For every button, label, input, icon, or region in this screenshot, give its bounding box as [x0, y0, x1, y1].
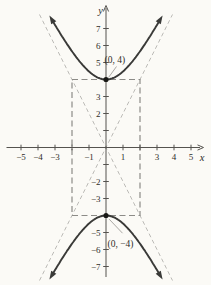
x-tick-label: −3 — [50, 152, 60, 162]
x-tick-label: 1 — [121, 152, 126, 162]
x-tick-label: 3 — [155, 152, 160, 162]
vertex-label-bottom: (0, −4) — [108, 239, 134, 250]
y-tick-label: −5 — [91, 228, 101, 238]
x-tick-label: 4 — [172, 152, 177, 162]
x-tick-label: 5 — [189, 152, 194, 162]
y-tick-label: 5 — [96, 58, 101, 68]
vertex-point-top — [103, 77, 108, 82]
y-tick-label: 6 — [96, 41, 101, 51]
x-tick-label: −5 — [16, 152, 26, 162]
y-axis-letter: y — [97, 5, 103, 16]
hyperbola-plot: xy−5−4−3−1134576532−2−3−5−6−7(0, 4)(0, −… — [0, 0, 211, 285]
vertex-label-top: (0, 4) — [105, 55, 126, 66]
x-axis-letter: x — [199, 152, 205, 163]
y-tick-label: −7 — [91, 262, 101, 272]
y-tick-label: 7 — [96, 24, 101, 34]
y-tick-label: 3 — [96, 92, 101, 102]
x-tick-label: −1 — [84, 152, 94, 162]
y-tick-label: −3 — [91, 194, 101, 204]
figure-page: xy−5−4−3−1134576532−2−3−5−6−7(0, 4)(0, −… — [0, 0, 211, 285]
y-tick-label: −6 — [91, 245, 101, 255]
y-tick-label: −2 — [91, 177, 101, 187]
vertex-point-bottom — [103, 213, 108, 218]
x-tick-label: −4 — [33, 152, 43, 162]
y-tick-label: 2 — [96, 109, 101, 119]
